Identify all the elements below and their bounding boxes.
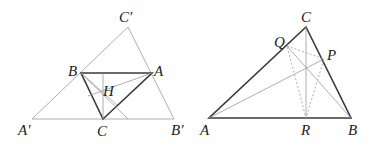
label-Aprime: A′ — [17, 122, 31, 138]
label-Q: Q — [274, 34, 285, 50]
label-P: P — [326, 47, 336, 63]
geometry-figure: C′ B A H A′ C B′ C Q P A R B — [0, 0, 376, 146]
label-R: R — [300, 122, 310, 138]
label-Cprime: C′ — [119, 9, 133, 25]
label-B: B — [348, 122, 357, 138]
label-C: C — [301, 9, 312, 25]
label-Bprime: B′ — [171, 122, 184, 138]
label-H: H — [102, 83, 115, 99]
altitude-from-A — [88, 73, 152, 96]
triangle-ABC — [81, 73, 152, 119]
right-figure: C Q P A R B — [199, 9, 357, 138]
label-B: B — [68, 63, 77, 79]
left-figure: C′ B A H A′ C B′ — [17, 9, 184, 139]
label-C: C — [97, 123, 108, 139]
label-A: A — [153, 63, 164, 79]
label-A: A — [199, 122, 210, 138]
orthic-triangle-PQR — [287, 46, 324, 118]
altitude-BQ — [287, 46, 351, 118]
